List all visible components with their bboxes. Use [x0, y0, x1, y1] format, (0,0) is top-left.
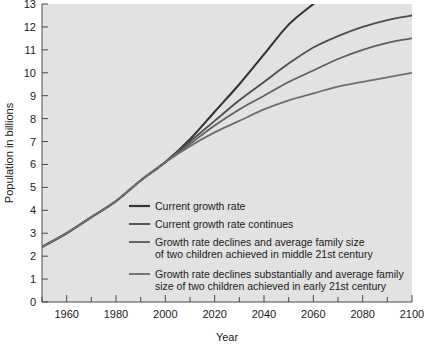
y-tick-label: 4	[30, 204, 36, 216]
y-tick-label: 6	[30, 158, 36, 170]
x-axis-tick-labels: 19601980200020202040206020802100	[54, 308, 424, 320]
x-tick-label: 1960	[54, 308, 78, 320]
legend-label-3: Growth rate declines and average family …	[155, 236, 365, 248]
y-tick-label: 7	[30, 136, 36, 148]
y-tick-label: 0	[30, 296, 36, 308]
x-tick-label: 2080	[350, 308, 374, 320]
legend-label-2: Current growth rate continues	[155, 218, 293, 230]
legend-label-4-line2: size of two children achieved in early 2…	[155, 280, 387, 292]
x-tick-label: 2000	[153, 308, 177, 320]
y-tick-label: 3	[30, 227, 36, 239]
y-tick-label: 2	[30, 250, 36, 262]
y-tick-label: 10	[24, 67, 36, 79]
x-tick-label: 2060	[301, 308, 325, 320]
x-tick-label: 2040	[252, 308, 276, 320]
y-axis-title: Population in billions	[3, 102, 15, 203]
y-tick-label: 13	[24, 0, 36, 10]
x-tick-label: 2100	[400, 308, 424, 320]
legend-label-4: Growth rate declines substantially and a…	[155, 268, 404, 280]
y-tick-label: 12	[24, 21, 36, 33]
x-tick-label: 1980	[104, 308, 128, 320]
legend-label-1: Current growth rate	[155, 200, 246, 212]
y-tick-label: 9	[30, 90, 36, 102]
y-axis-tick-labels: 012345678910111213	[24, 0, 36, 308]
y-tick-label: 5	[30, 181, 36, 193]
y-tick-label: 8	[30, 113, 36, 125]
legend-label-3-line2: of two children achieved in middle 21st …	[155, 248, 373, 260]
population-projection-chart: 012345678910111213 196019802000202020402…	[0, 0, 424, 348]
x-axis-title: Year	[216, 331, 239, 343]
y-tick-label: 1	[30, 273, 36, 285]
x-tick-label: 2020	[202, 308, 226, 320]
y-tick-label: 11	[25, 44, 36, 56]
chart-svg: 012345678910111213 196019802000202020402…	[0, 0, 424, 348]
